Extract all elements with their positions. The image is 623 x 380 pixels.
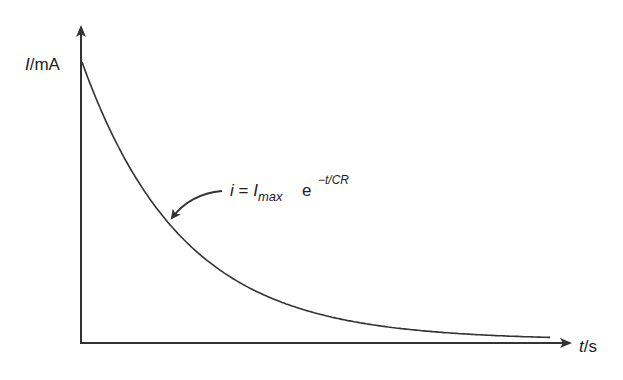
eq-exp-base: e <box>302 181 311 200</box>
y-axis-label-unit: /mA <box>30 55 61 74</box>
equation-annotation: i = Imaxe−t/CR <box>230 173 349 204</box>
decay-curve <box>82 62 550 337</box>
x-axis-label-unit: /s <box>584 337 597 356</box>
chart: I/mA t/s i = Imaxe−t/CR <box>0 0 623 380</box>
eq-equals: = <box>234 181 253 200</box>
eq-imax-subscript: max <box>258 189 283 204</box>
eq-exponent: −t/CR <box>318 173 349 187</box>
x-axis-label: t/s <box>579 337 597 356</box>
y-axis-label: I/mA <box>25 55 61 74</box>
annotation-arrow <box>172 191 222 218</box>
